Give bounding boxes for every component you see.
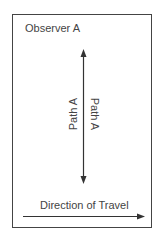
direction-of-travel-label: Direction of Travel [40, 199, 129, 211]
path-label-left: Path A [67, 94, 79, 134]
vertical-path-arrow [81, 49, 87, 184]
direction-of-travel-arrow [23, 214, 145, 220]
path-label-right: Path A [89, 94, 101, 134]
